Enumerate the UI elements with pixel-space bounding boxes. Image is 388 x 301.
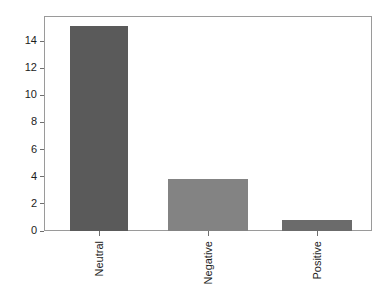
x-tick-label-negative: Negative bbox=[202, 241, 214, 284]
y-tick-label: 4 bbox=[31, 170, 37, 183]
y-axis: 14 12 10 8 6 4 2 0 bbox=[0, 0, 44, 301]
y-tick-label: 8 bbox=[31, 115, 37, 128]
y-tick-mark bbox=[40, 203, 44, 204]
y-tick-mark bbox=[40, 122, 44, 123]
y-tick-label: 6 bbox=[31, 143, 37, 156]
y-tick-label: 12 bbox=[25, 61, 37, 74]
x-tick-label-neutral: Neutral bbox=[93, 241, 105, 276]
y-tick-mark bbox=[40, 68, 44, 69]
y-tick-mark bbox=[40, 41, 44, 42]
x-tick-mark-negative bbox=[208, 231, 209, 236]
bar-chart: 14 12 10 8 6 4 2 0 bbox=[0, 0, 388, 301]
y-tick-label: 10 bbox=[25, 88, 37, 101]
x-tick-mark-positive bbox=[317, 231, 318, 236]
bar-negative[interactable] bbox=[168, 179, 248, 231]
plot-area bbox=[44, 16, 372, 231]
x-tick-label-positive: Positive bbox=[311, 241, 323, 280]
y-tick-label: 14 bbox=[25, 34, 37, 47]
y-tick-label: 0 bbox=[31, 224, 37, 237]
y-tick-mark bbox=[40, 95, 44, 96]
bar-positive[interactable] bbox=[282, 220, 352, 231]
x-tick-mark-neutral bbox=[99, 231, 100, 236]
y-tick-label: 2 bbox=[31, 197, 37, 210]
y-tick-mark bbox=[40, 231, 44, 232]
y-tick-mark bbox=[40, 176, 44, 177]
bar-neutral[interactable] bbox=[70, 26, 128, 231]
y-tick-mark bbox=[40, 149, 44, 150]
